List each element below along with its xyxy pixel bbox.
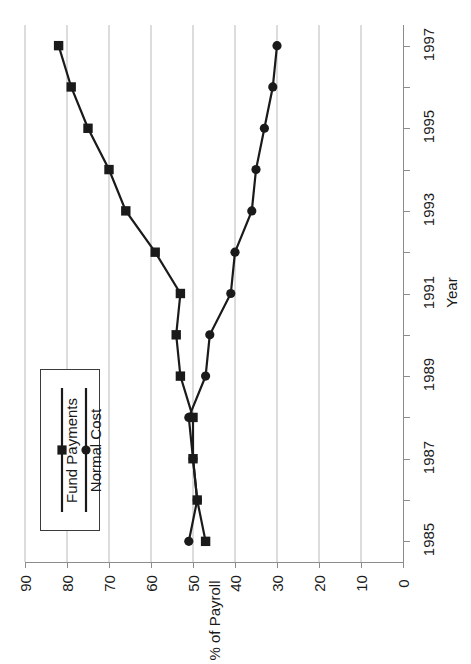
year-tick	[404, 376, 410, 377]
year-tick-label: 1989	[420, 355, 437, 395]
year-axis-title: Year	[443, 272, 460, 312]
payroll-tick-label: 60	[143, 564, 160, 604]
year-tick	[404, 459, 410, 460]
year-tick	[404, 335, 410, 336]
payroll-tick-label: 0	[395, 564, 412, 604]
year-tick	[404, 87, 410, 88]
payroll-tick-label: 70	[101, 564, 118, 604]
year-tick-label: 1993	[420, 189, 437, 229]
year-tick	[404, 500, 410, 501]
payroll-tick-label: 50	[185, 564, 202, 604]
payroll-tick-label: 90	[17, 564, 34, 604]
year-tick	[404, 170, 410, 171]
year-tick	[404, 417, 410, 418]
payroll-axis-title: % of Payroll	[206, 551, 223, 664]
legend-item-fund-payments[interactable]: Fund Payments	[51, 370, 73, 530]
payroll-tick-label: 20	[311, 564, 328, 604]
legend-label-fund-payments: Fund Payments	[63, 376, 80, 526]
year-tick	[404, 128, 410, 129]
year-tick	[404, 294, 410, 295]
payroll-tick-label: 10	[353, 564, 370, 604]
payroll-tick-label: 40	[227, 564, 244, 604]
payroll-tick-label: 30	[269, 564, 286, 604]
year-tick	[404, 541, 410, 542]
year-tick-label: 1995	[420, 107, 437, 147]
legend-label-normal-cost: Normal Cost	[87, 376, 104, 526]
year-tick	[404, 252, 410, 253]
payroll-tick-label: 80	[59, 564, 76, 604]
year-tick-label: 1987	[420, 437, 437, 477]
year-tick	[404, 211, 410, 212]
year-tick-label: 1985	[420, 520, 437, 560]
chart-legend: Normal Cost Fund Payments	[40, 369, 100, 531]
year-tick	[404, 46, 410, 47]
year-tick-label: 1997	[420, 24, 437, 64]
year-tick-label: 1991	[420, 272, 437, 312]
